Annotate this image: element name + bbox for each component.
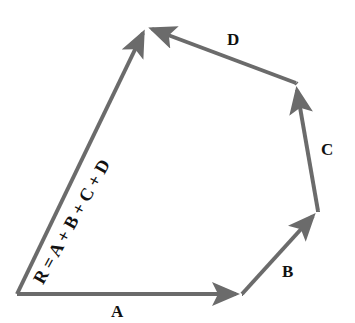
- vector-a-label: A: [111, 303, 123, 320]
- vector-b-label: B: [282, 263, 293, 280]
- vector-d-arrow: [152, 29, 296, 83]
- vector-d-label: D: [227, 31, 239, 48]
- vector-b-arrow: [242, 216, 313, 294]
- vector-sum-diagram: A B C D R = A + B + C + D: [0, 0, 355, 323]
- vector-c-label: C: [321, 141, 333, 158]
- vector-r-arrow: [17, 33, 143, 294]
- vector-c-arrow: [297, 90, 318, 211]
